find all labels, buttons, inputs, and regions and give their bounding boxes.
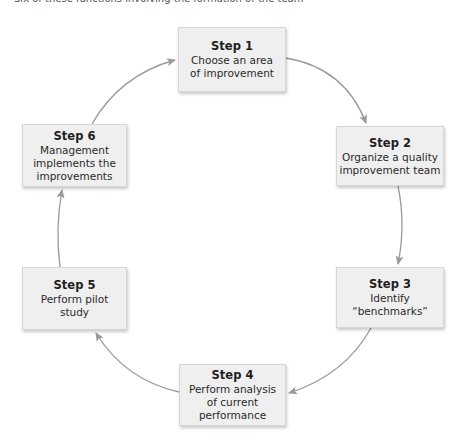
step-5-box: Step 5 Perform pilot study [22,267,127,330]
step-4-text-line: Perform analysis [189,383,276,396]
step-6-box: Step 6 Management implements the improve… [22,124,127,187]
step-1-title: Step 1 [211,39,253,54]
step-4-title: Step 4 [212,368,254,383]
arrow-step4-to-step5 [96,333,179,392]
step-5-text-line: study [60,306,89,319]
step-3-text-line: Identify [370,292,410,305]
step-4-box: Step 4 Perform analysis of current perfo… [179,364,286,426]
step-4-text-line: of current [207,396,258,409]
step-6-text-line: improvements [37,170,113,183]
arrow-step1-to-step2 [286,58,366,123]
step-2-box: Step 2 Organize a quality improvement te… [336,126,444,186]
step-2-title: Step 2 [369,136,411,151]
step-6-title: Step 6 [54,129,96,144]
step-3-box: Step 3 Identify “benchmarks” [336,267,444,328]
arrow-step2-to-step3 [398,186,402,264]
step-1-text-line: of improvement [190,67,274,80]
step-4-text-line: performance [199,409,266,422]
step-5-text-line: Perform pilot [41,293,109,306]
step-3-title: Step 3 [369,277,411,292]
step-6-text-line: Management [40,144,109,157]
step-1-box: Step 1 Choose an area of improvement [178,27,286,92]
step-5-title: Step 5 [54,278,96,293]
arrow-step3-to-step4 [289,328,371,393]
step-1-text-line: Choose an area [191,54,273,67]
step-3-text-line: “benchmarks” [352,305,428,318]
step-6-text-line: implements the [33,157,116,170]
step-2-text-line: Organize a quality [342,151,438,164]
arrow-step6-to-step1 [92,60,175,124]
step-2-text-line: improvement team [339,164,440,177]
arrow-step5-to-step6 [58,190,62,267]
